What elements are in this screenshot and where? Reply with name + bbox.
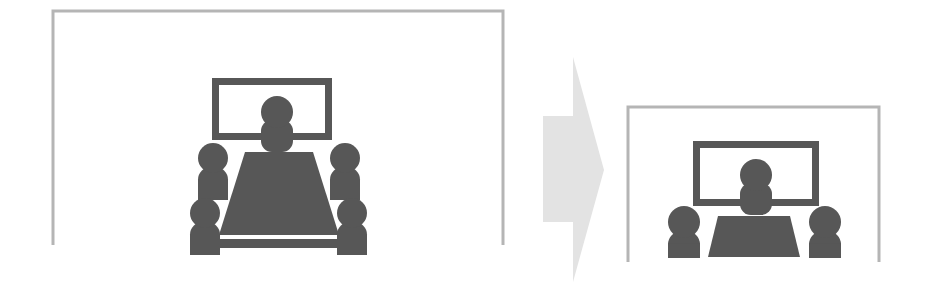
remote-presenter-small (740, 159, 772, 215)
participant-head (809, 206, 841, 238)
participant-head (190, 198, 220, 228)
participant-base (190, 237, 220, 255)
diagram-canvas: Meeting room downsizing diagram A large … (0, 0, 936, 289)
transform-arrow-icon (543, 57, 604, 282)
remote-presenter-head (261, 96, 293, 128)
participant-head (668, 206, 700, 238)
table-top (708, 216, 800, 257)
participant-back-right (330, 143, 360, 200)
participant-base (330, 182, 360, 200)
participant-head (337, 198, 367, 228)
transform-arrow-group (543, 57, 604, 282)
table-top (219, 152, 339, 235)
conference-table-large (215, 152, 343, 248)
remote-presenter-head (740, 159, 772, 191)
participant-base (337, 237, 367, 255)
participant-front-right (337, 198, 367, 255)
participant-front-left (190, 198, 220, 255)
participant-right (809, 206, 841, 258)
participant-head (330, 143, 360, 173)
diagram-svg (0, 0, 936, 289)
panel-large-meeting-room[interactable] (53, 11, 503, 255)
conference-table-small (708, 216, 800, 257)
participant-left (668, 206, 700, 258)
participant-base (668, 243, 700, 258)
panel-small-meeting-room[interactable] (628, 107, 879, 262)
participant-head (198, 143, 228, 173)
participant-base (809, 243, 841, 258)
remote-presenter-large (261, 96, 293, 152)
participant-base (198, 182, 228, 200)
participant-back-left (198, 143, 228, 200)
table-base (215, 239, 343, 248)
